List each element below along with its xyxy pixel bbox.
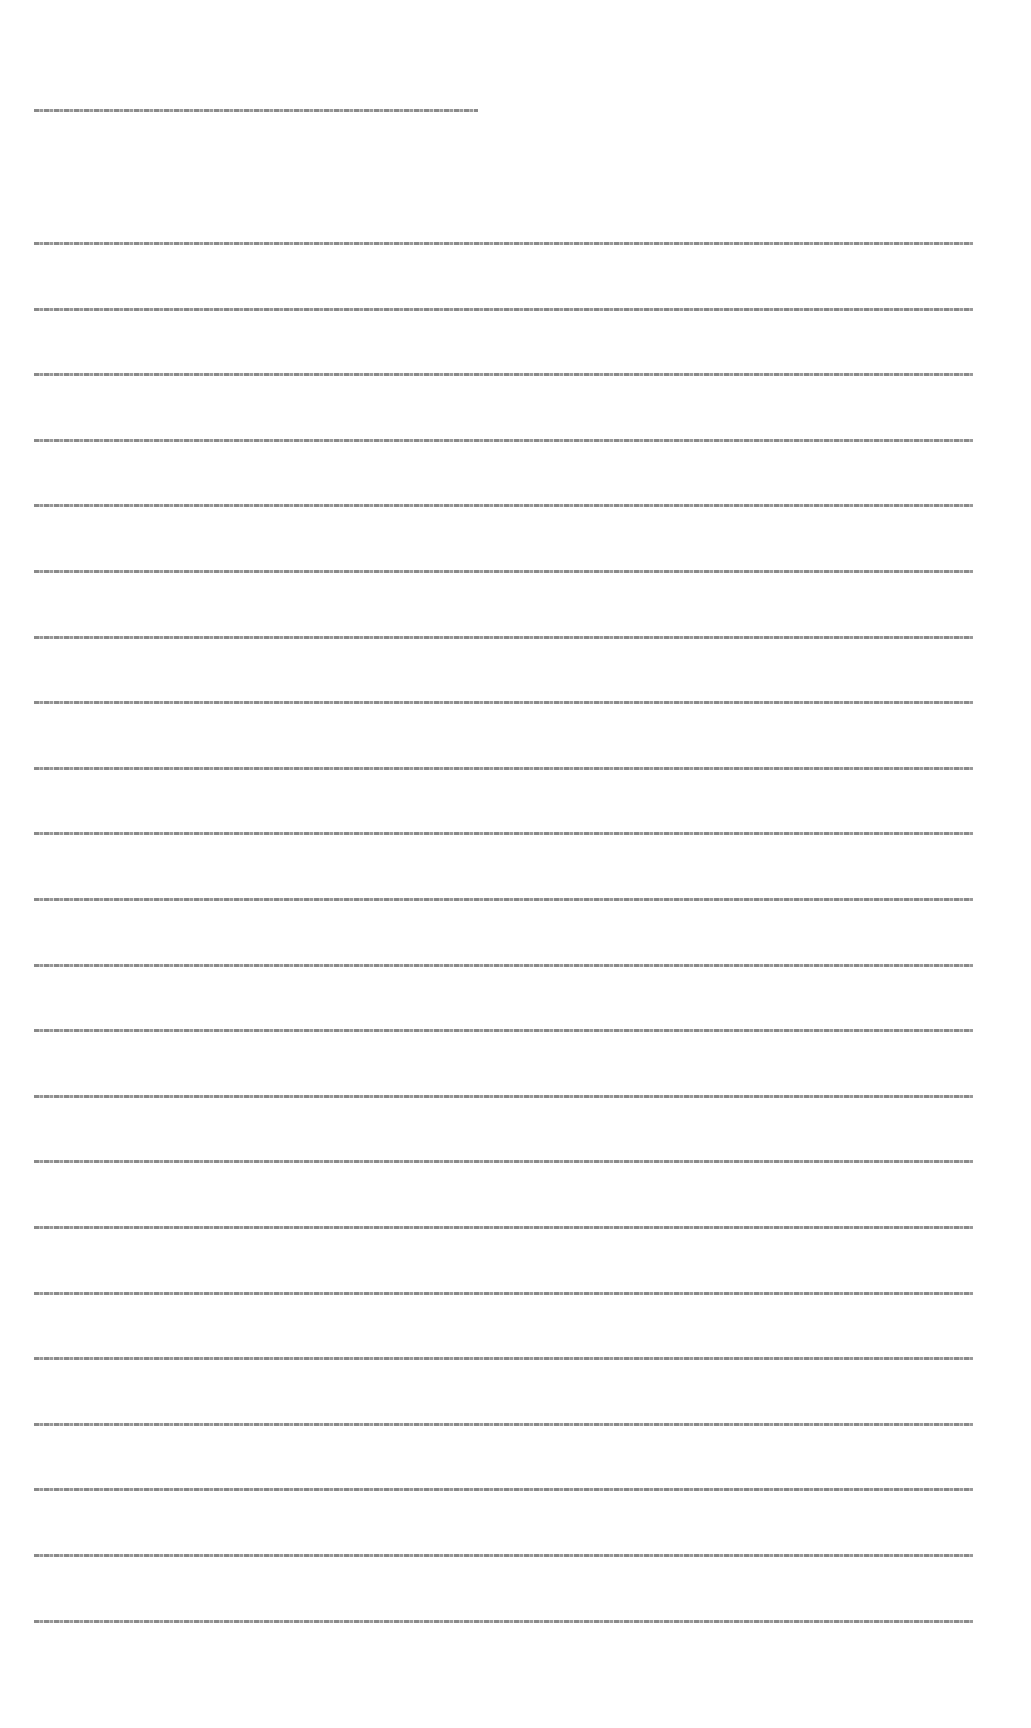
body-text-line <box>34 1292 973 1295</box>
body-text-line <box>34 1095 973 1098</box>
body-text-line <box>34 1423 973 1426</box>
body-text-line <box>34 898 973 901</box>
body-text-line <box>34 832 973 835</box>
body-text-line <box>34 439 973 442</box>
body-text-line <box>34 242 973 245</box>
body-text-line <box>34 964 973 967</box>
header-text-line <box>34 109 478 112</box>
body-text-line <box>34 504 973 507</box>
body-text-line <box>34 1160 973 1163</box>
body-text-line <box>34 1554 973 1557</box>
body-text-line <box>34 1357 973 1360</box>
body-text-line <box>34 308 973 311</box>
body-text-line <box>34 1488 973 1491</box>
body-text-line <box>34 701 973 704</box>
body-text-line <box>34 373 973 376</box>
body-text-line <box>34 1029 973 1032</box>
body-text-line <box>34 1620 973 1623</box>
body-text-line <box>34 636 973 639</box>
body-text-line <box>34 1226 973 1229</box>
body-text-line <box>34 767 973 770</box>
body-text-line <box>34 570 973 573</box>
